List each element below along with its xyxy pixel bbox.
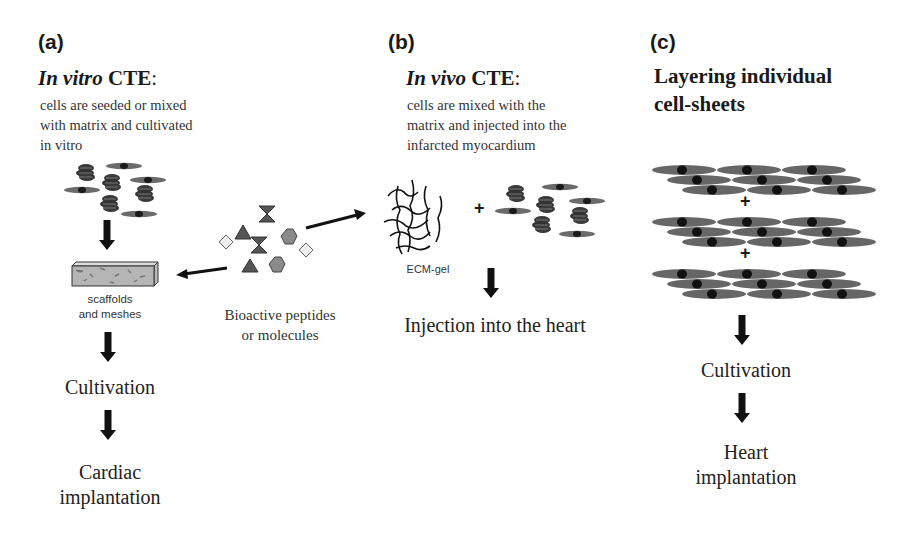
title-line: Layering individual bbox=[654, 62, 832, 90]
plus-sign: + bbox=[740, 191, 751, 212]
desc-line: cells are seeded or mixed bbox=[40, 95, 193, 115]
panel-b-title: In vivo CTE: bbox=[406, 66, 520, 91]
panel-c-title: Layering individual cell-sheets bbox=[654, 62, 832, 118]
title-rest: CTE bbox=[466, 66, 514, 90]
panel-a-label: (a) bbox=[38, 30, 64, 54]
step-line: implantation bbox=[666, 465, 826, 490]
down-arrow-icon bbox=[734, 393, 750, 423]
plus-sign: + bbox=[740, 243, 751, 264]
title-line: cell-sheets bbox=[654, 90, 832, 118]
molecules-label-line: Bioactive peptides bbox=[200, 305, 360, 325]
desc-line: infarcted myocardium bbox=[407, 135, 566, 155]
down-arrow-icon bbox=[100, 332, 116, 362]
panel-c-label: (c) bbox=[650, 30, 676, 54]
panel-a-title: In vitro CTE: bbox=[38, 66, 157, 91]
arrow-to-scaffold bbox=[184, 268, 227, 274]
step-cultivation-c: Cultivation bbox=[666, 358, 826, 383]
step-heart-implantation: Heart implantation bbox=[666, 440, 826, 490]
panel-b-description: cells are mixed with the matrix and inje… bbox=[407, 95, 566, 155]
title-rest: CTE bbox=[103, 66, 151, 90]
desc-line: matrix and injected into the bbox=[407, 115, 566, 135]
ecm-gel-label: ECM-gel bbox=[407, 263, 450, 275]
panel-a-description: cells are seeded or mixed with matrix an… bbox=[40, 95, 193, 155]
molecules-cluster bbox=[219, 206, 313, 272]
arrow-to-gel bbox=[306, 215, 357, 228]
scaffold-label-line: scaffolds bbox=[60, 292, 160, 307]
molecules-label: Bioactive peptides or molecules bbox=[200, 305, 360, 345]
panel-b-label: (b) bbox=[388, 30, 415, 54]
scaffold-label: scaffolds and meshes bbox=[60, 292, 160, 322]
cell-sheet-stack bbox=[652, 165, 876, 299]
plus-sign: + bbox=[474, 198, 485, 219]
step-injection: Injection into the heart bbox=[360, 313, 630, 338]
down-arrow-icon bbox=[483, 268, 499, 298]
step-line: implantation bbox=[30, 485, 190, 510]
scaffold-label-line: and meshes bbox=[60, 307, 160, 322]
desc-line: with matrix and cultivated bbox=[40, 115, 193, 135]
cells-group-a bbox=[64, 163, 166, 217]
down-arrow-icon bbox=[734, 315, 750, 345]
step-line: Cardiac bbox=[30, 460, 190, 485]
desc-line: cells are mixed with the bbox=[407, 95, 566, 115]
molecules-label-line: or molecules bbox=[200, 325, 360, 345]
title-italic: In vitro bbox=[38, 66, 103, 90]
scaffold-block bbox=[72, 262, 158, 286]
down-arrow-icon bbox=[100, 410, 116, 440]
title-colon: : bbox=[151, 66, 157, 90]
down-arrow-icon bbox=[99, 220, 115, 250]
step-cardiac-implantation: Cardiac implantation bbox=[30, 460, 190, 510]
title-italic: In vivo bbox=[406, 66, 466, 90]
desc-line: in vitro bbox=[40, 135, 193, 155]
ecm-gel-icon bbox=[384, 180, 442, 254]
cells-group-b bbox=[495, 184, 605, 237]
title-colon: : bbox=[515, 66, 521, 90]
step-line: Heart bbox=[666, 440, 826, 465]
step-cultivation-a: Cultivation bbox=[30, 375, 190, 400]
